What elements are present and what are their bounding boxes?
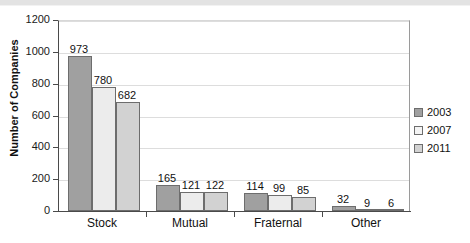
- y-tick-label: 800: [0, 77, 50, 89]
- bar[interactable]: [268, 195, 292, 211]
- legend-label-2007: 2007: [427, 124, 451, 136]
- chart-figure: Number of Companies 02004006008001000120…: [0, 0, 470, 243]
- gridline: [59, 53, 409, 54]
- bar-value-label: 122: [199, 179, 231, 191]
- bar[interactable]: [92, 87, 116, 211]
- legend-item-2003[interactable]: 2003: [414, 104, 468, 120]
- bar-value-label: 85: [287, 184, 319, 196]
- y-tick-label: 200: [0, 172, 50, 184]
- y-tick-label: 400: [0, 140, 50, 152]
- page-scan-band: [0, 0, 470, 5]
- bar-value-label: 973: [63, 43, 95, 55]
- legend-swatch-2007-icon: [414, 126, 423, 135]
- bar[interactable]: [180, 192, 204, 211]
- y-tick-label: 600: [0, 109, 50, 121]
- bar[interactable]: [116, 102, 140, 211]
- category-label: Stock: [58, 216, 146, 230]
- legend-label-2003: 2003: [427, 106, 451, 118]
- legend-item-2007[interactable]: 2007: [414, 122, 468, 138]
- chart-legend: 2003 2007 2011: [414, 104, 468, 158]
- bar-value-label: 6: [375, 197, 407, 209]
- plot-area: [58, 20, 410, 211]
- bar-value-label: 780: [87, 74, 119, 86]
- y-tick-label: 1200: [0, 13, 50, 25]
- y-tick-label: 1000: [0, 45, 50, 57]
- legend-swatch-2003-icon: [414, 108, 423, 117]
- category-label: Fraternal: [234, 216, 322, 230]
- bar-value-label: 682: [111, 89, 143, 101]
- legend-label-2011: 2011: [427, 142, 451, 154]
- bar[interactable]: [204, 192, 228, 211]
- category-label: Mutual: [146, 216, 234, 230]
- legend-swatch-2011-icon: [414, 144, 423, 153]
- legend-item-2011[interactable]: 2011: [414, 140, 468, 156]
- bar[interactable]: [292, 197, 316, 211]
- y-tick-label: 0: [0, 204, 50, 216]
- bar[interactable]: [244, 193, 268, 211]
- y-axis-tick-labels: 020040060080010001200: [0, 0, 50, 243]
- gridline: [59, 21, 409, 22]
- category-label: Other: [322, 216, 410, 230]
